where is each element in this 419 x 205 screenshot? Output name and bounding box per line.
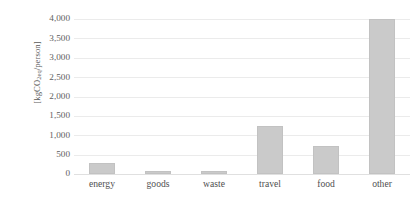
plot-area [74, 19, 410, 174]
bar [145, 171, 171, 174]
y-axis-tick-label: 3,000 [30, 53, 70, 62]
x-axis-tick-label: waste [182, 178, 246, 190]
y-axis-tick-label: 1,000 [30, 131, 70, 140]
bar [313, 146, 339, 174]
bar [89, 163, 115, 174]
x-axis-tick-label: other [350, 178, 414, 190]
x-axis-tick-labels: energygoodswastetravelfoodother [74, 178, 410, 198]
bar [369, 19, 395, 174]
y-axis-tick-label: 3,500 [30, 34, 70, 43]
y-axis-tick-label: 2,000 [30, 92, 70, 101]
y-axis-tick-label: 500 [30, 150, 70, 159]
x-axis-tick-label: energy [70, 178, 134, 190]
x-axis-tick-label: travel [238, 178, 302, 190]
x-axis-tick-label: goods [126, 178, 190, 190]
y-axis-tick-label: 0 [30, 169, 70, 178]
y-axis-tick-label: 1,500 [30, 111, 70, 120]
y-axis-tick-label: 2,500 [30, 73, 70, 82]
bar [201, 171, 227, 174]
x-axis-tick-label: food [294, 178, 358, 190]
y-axis-tick-label: 4,000 [30, 14, 70, 23]
bar [257, 126, 283, 174]
gridline [74, 174, 410, 175]
y-axis-tick-labels: 05001,0001,5002,0002,5003,0003,5004,000 [30, 0, 70, 205]
bar-chart: [kgCO2eq/person] 05001,0001,5002,0002,50… [0, 0, 419, 205]
bars-layer [74, 19, 410, 174]
